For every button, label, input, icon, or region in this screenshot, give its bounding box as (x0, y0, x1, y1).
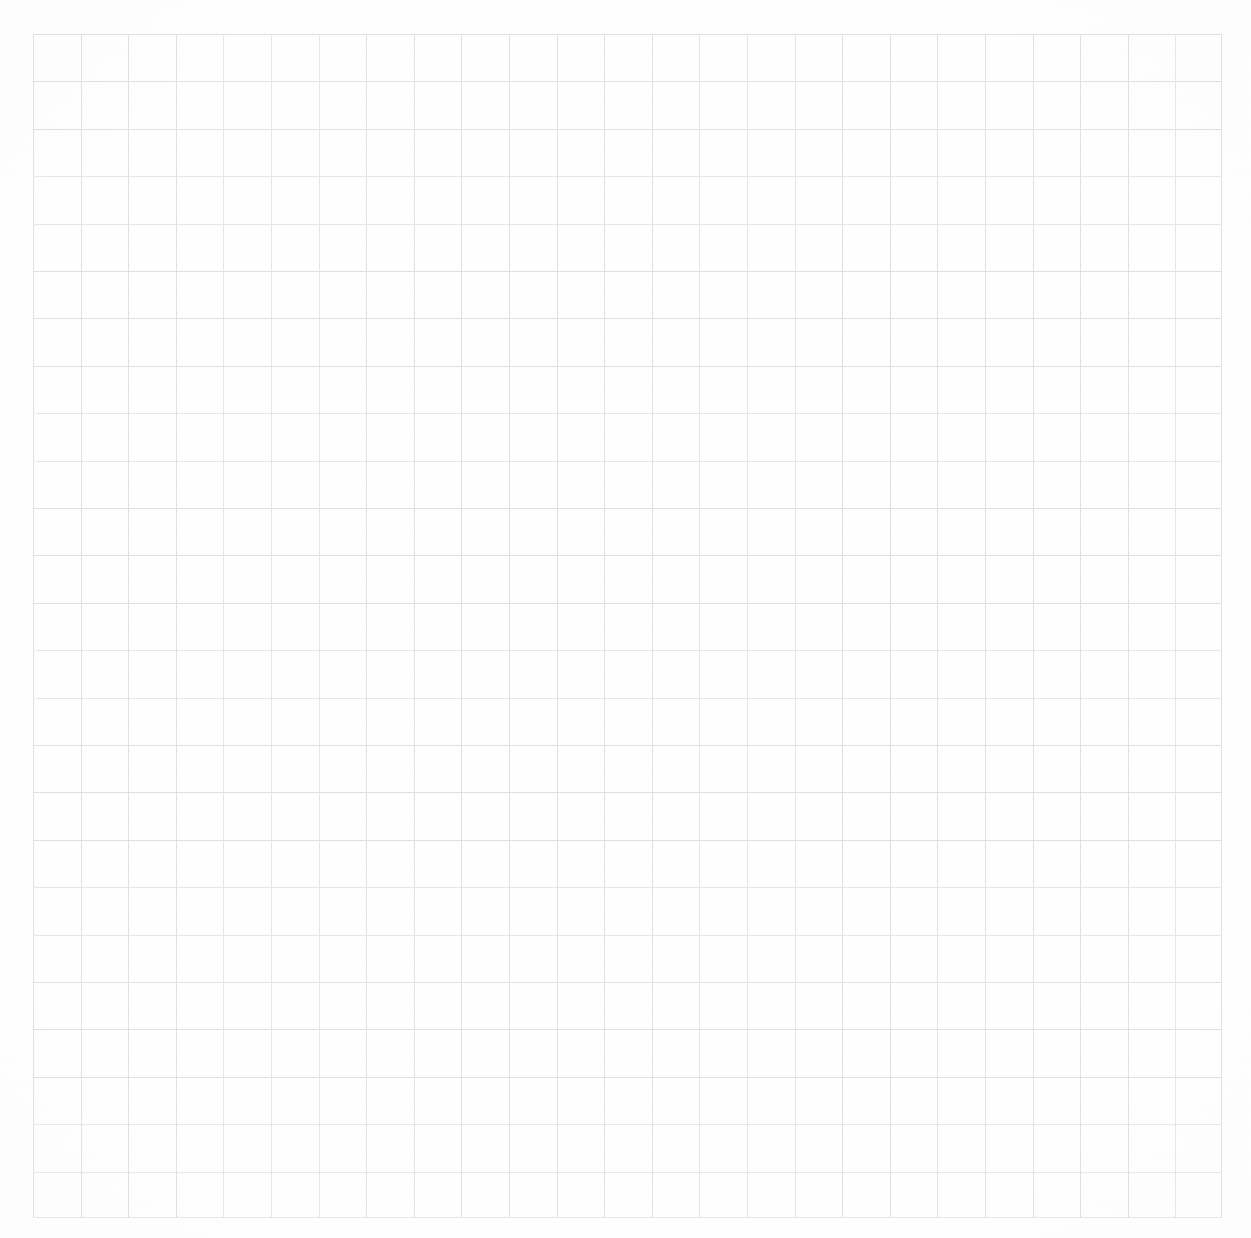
grid-bottom-edge-line (33, 1217, 1222, 1218)
grid-lines (33, 34, 1222, 1218)
grid-paper-page (0, 0, 1251, 1238)
grid-area (33, 34, 1222, 1218)
grid-right-edge-line (1221, 34, 1222, 1218)
